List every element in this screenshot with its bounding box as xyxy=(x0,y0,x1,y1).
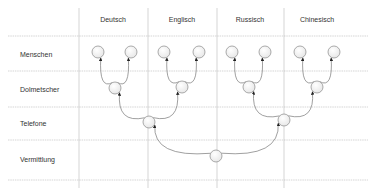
column-label: Russisch xyxy=(236,16,264,23)
node-dol-en xyxy=(176,81,188,93)
edges xyxy=(101,58,332,154)
edge-arrow xyxy=(251,58,262,83)
node-en-1 xyxy=(158,46,170,58)
node-zh-1 xyxy=(294,46,306,58)
node-dol-ru xyxy=(243,81,255,93)
column-label: Englisch xyxy=(169,16,195,23)
edge-arrow xyxy=(185,58,197,83)
edge-arrow xyxy=(153,92,178,119)
row-label: Telefone xyxy=(20,120,46,127)
node-zh-2 xyxy=(328,46,340,58)
node-dol-zh xyxy=(311,81,323,93)
edge-arrow xyxy=(320,58,332,83)
node-en-2 xyxy=(193,46,205,58)
node-ru-2 xyxy=(259,46,271,58)
edge-arrow xyxy=(253,91,279,116)
edge-arrow xyxy=(155,125,211,154)
edge-arrow xyxy=(288,92,312,117)
node-ru-1 xyxy=(226,46,238,58)
edge-arrow xyxy=(303,58,315,83)
grid-lines xyxy=(8,8,368,188)
hierarchy-diagram xyxy=(0,0,371,196)
edge-arrow xyxy=(167,58,180,83)
column-label: Deutsch xyxy=(100,16,126,23)
edge-arrow xyxy=(221,123,278,154)
node-de-2 xyxy=(125,46,137,58)
node-verm xyxy=(210,150,222,162)
row-label: Menschen xyxy=(20,51,52,58)
column-label: Chinesisch xyxy=(300,16,334,23)
node-de-1 xyxy=(92,46,104,58)
edge-arrow xyxy=(235,58,247,83)
row-label: Dolmetscher xyxy=(20,86,59,93)
node-dol-de xyxy=(109,82,121,94)
node-tel-1 xyxy=(143,116,155,128)
node-tel-2 xyxy=(278,114,290,126)
row-label: Vermittlung xyxy=(20,156,55,163)
edge-arrow xyxy=(119,93,144,119)
